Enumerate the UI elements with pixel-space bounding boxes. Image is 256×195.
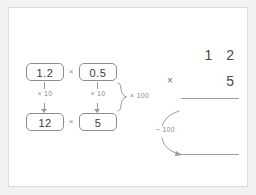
arrow-shaft-upper	[44, 82, 45, 89]
curly-brace-icon	[117, 82, 128, 112]
scale-arrow-right-label: × 10	[79, 90, 117, 97]
worksheet-card: 1.2 × 0.5 × 10 × 10 × 100 12 × 5 1 2	[8, 7, 248, 187]
chip-decimal-multiplier[interactable]: 0.5	[79, 63, 117, 81]
multiply-operator-top: ×	[64, 63, 78, 81]
diagram-stage: 1.2 × 0.5 × 10 × 10 × 100 12 × 5 1 2	[9, 8, 249, 188]
divide-arrow-icon	[157, 108, 191, 158]
arrow-shaft-upper	[97, 82, 98, 89]
scale-arrow-right: × 10	[79, 81, 117, 113]
chip-whole-multiplier[interactable]: 5	[79, 113, 117, 131]
multiply-operator-bottom: ×	[64, 113, 78, 131]
column-multiplier: 5	[181, 72, 239, 90]
scale-arrow-left: × 10	[26, 81, 64, 113]
undo-scaling-label: ÷ 100	[155, 126, 176, 133]
scale-arrow-left-label: × 10	[26, 90, 64, 97]
column-multiplicand: 1 2	[181, 46, 239, 64]
chip-decimal-multiplicand[interactable]: 1.2	[26, 63, 64, 81]
column-multiply-operator: ×	[167, 72, 173, 90]
combined-scale-label: × 100	[130, 92, 149, 99]
chip-whole-multiplicand[interactable]: 12	[26, 113, 64, 131]
